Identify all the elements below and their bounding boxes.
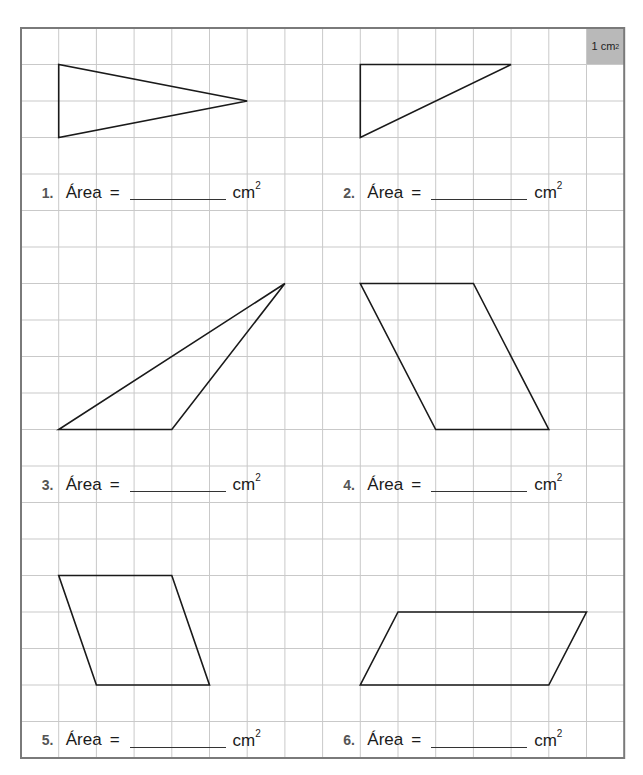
unit-exponent: 2 — [557, 728, 563, 739]
unit-text: cm2 — [534, 182, 562, 203]
problem-5-label: 5. Área = cm2 — [42, 722, 261, 758]
equals-sign: = — [110, 183, 120, 203]
problem-number: 2. — [343, 185, 367, 201]
area-word: Área — [66, 183, 102, 203]
equals-sign: = — [411, 183, 421, 203]
problem-number: 4. — [343, 477, 367, 493]
unit: cm — [534, 475, 557, 494]
unit-legend-exponent: 2 — [615, 43, 619, 50]
unit: cm — [233, 730, 256, 749]
unit-text: cm2 — [233, 730, 261, 751]
problem-number: 3. — [42, 477, 66, 493]
unit-exponent: 2 — [255, 728, 261, 739]
grid-paper — [0, 0, 643, 775]
equals-sign: = — [411, 730, 421, 750]
worksheet: 1 cm2 1. Área = cm2 2. Área = cm2 3. Áre… — [0, 0, 643, 775]
unit-exponent: 2 — [557, 180, 563, 191]
grid-lines — [21, 28, 624, 758]
problem-6-label: 6. Área = cm2 — [343, 722, 562, 758]
unit-text: cm2 — [534, 730, 562, 751]
area-word: Área — [66, 475, 102, 495]
unit-legend-unit: cm — [601, 40, 616, 52]
area-word: Área — [66, 730, 102, 750]
problem-number: 1. — [42, 185, 66, 201]
answer-blank[interactable] — [130, 473, 226, 492]
area-word: Área — [367, 475, 403, 495]
unit-exponent: 2 — [255, 472, 261, 483]
equals-sign: = — [110, 730, 120, 750]
unit-text: cm2 — [233, 182, 261, 203]
problem-3-label: 3. Área = cm2 — [42, 467, 261, 503]
problem-number: 6. — [343, 732, 367, 748]
unit-text: cm2 — [233, 474, 261, 495]
answer-blank[interactable] — [130, 181, 226, 200]
equals-sign: = — [110, 475, 120, 495]
answer-blank[interactable] — [130, 729, 226, 748]
area-word: Área — [367, 183, 403, 203]
area-word: Área — [367, 730, 403, 750]
unit-exponent: 2 — [255, 180, 261, 191]
unit: cm — [233, 183, 256, 202]
unit: cm — [534, 183, 557, 202]
equals-sign: = — [411, 475, 421, 495]
problem-1-label: 1. Área = cm2 — [42, 175, 261, 211]
problem-4-label: 4. Área = cm2 — [343, 467, 562, 503]
unit-text: cm2 — [534, 474, 562, 495]
unit-legend-label: 1 cm2 — [587, 28, 625, 65]
answer-blank[interactable] — [431, 473, 527, 492]
unit-legend-value: 1 — [591, 40, 597, 52]
unit: cm — [233, 475, 256, 494]
answer-blank[interactable] — [431, 181, 527, 200]
problem-number: 5. — [42, 732, 66, 748]
unit-exponent: 2 — [557, 472, 563, 483]
unit: cm — [534, 730, 557, 749]
answer-blank[interactable] — [431, 729, 527, 748]
problem-2-label: 2. Área = cm2 — [343, 175, 562, 211]
